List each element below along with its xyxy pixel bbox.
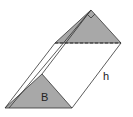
- bottom-triangle-face: [5, 74, 72, 108]
- prism-svg: B h: [0, 0, 133, 117]
- lateral-edge-right: [72, 43, 121, 108]
- prism-diagram: B h: [0, 0, 133, 117]
- base-label: B: [41, 91, 48, 103]
- height-label: h: [103, 70, 109, 82]
